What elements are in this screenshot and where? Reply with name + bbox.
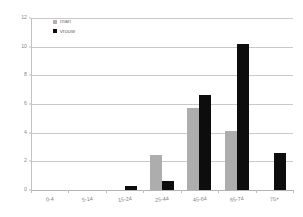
legend-item-man: man	[53, 19, 75, 25]
x-label-slot-1: 5-14	[68, 193, 105, 215]
y-tick-label-6: 6	[24, 101, 27, 106]
bar-group-75plus	[256, 18, 293, 190]
x-axis-labels: 0-45-1415-2425-4445-6465-7475+	[31, 193, 293, 215]
bar-man-25-44	[150, 155, 162, 190]
bar-vrouw-45-64	[199, 95, 211, 190]
plot-area: 12 10 8 6 4 2 0	[31, 18, 293, 190]
x-label-slot-2: 15-24	[106, 193, 143, 215]
bar-man-65-74	[225, 131, 237, 190]
x-axis-label-0-4: 0-4	[46, 197, 54, 203]
x-axis-label-5-14: 5-14	[81, 196, 92, 203]
chart-legend: man vrouw	[53, 19, 75, 34]
bar-vrouw-75plus	[274, 153, 286, 190]
square-marker-black-icon	[53, 29, 57, 33]
legend-label-man: man	[60, 19, 71, 25]
bar-vrouw-65-74	[237, 44, 249, 190]
bar-man-45-64	[187, 108, 199, 190]
square-marker-gray-icon	[53, 20, 57, 24]
y-tick-label-2: 2	[24, 159, 27, 164]
legend-item-vrouw: vrouw	[53, 29, 75, 35]
y-tick-label-12: 12	[21, 15, 27, 20]
x-label-slot-5: 65-74	[218, 193, 255, 215]
x-label-slot-4: 45-64	[181, 193, 218, 215]
y-tick-label-10: 10	[21, 44, 27, 49]
y-tick-label-8: 8	[24, 73, 27, 78]
bar-group-45-64	[181, 18, 218, 190]
bar-group-65-74	[218, 18, 255, 190]
bar-group-15-24	[106, 18, 143, 190]
y-tick-label-0: 0	[24, 187, 27, 192]
bar-group-5-14	[68, 18, 105, 190]
x-label-slot-6: 75+	[256, 193, 293, 215]
x-axis-label-65-74: 65-74	[230, 196, 244, 203]
x-axis-label-25-44: 25-44	[155, 196, 169, 203]
x-axis-label-75plus: 75+	[269, 196, 279, 202]
y-axis-line	[31, 18, 32, 191]
y-tick-label-4: 4	[24, 130, 27, 135]
legend-label-vrouw: vrouw	[60, 29, 75, 35]
x-label-slot-0: 0-4	[31, 193, 68, 215]
bar-chart: 12 10 8 6 4 2 0 0-45-1415-2425-4445-6465…	[0, 0, 303, 217]
x-label-slot-3: 25-44	[143, 193, 180, 215]
bar-groups	[31, 18, 293, 190]
x-axis-label-45-64: 45-64	[192, 196, 206, 203]
x-axis-label-15-24: 15-24	[117, 196, 131, 203]
x-tickmark-7	[293, 190, 294, 193]
bar-group-25-44	[143, 18, 180, 190]
bar-vrouw-25-44	[162, 181, 174, 190]
bar-group-0-4	[31, 18, 68, 190]
